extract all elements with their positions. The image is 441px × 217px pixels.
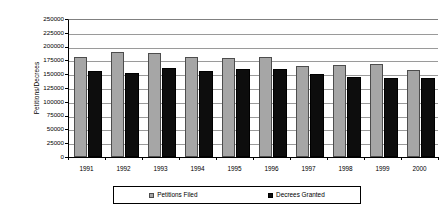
y-tick-label: 0 [24,154,64,160]
bar-chart: Petitions/Decrees 2500002250002000001750… [0,0,441,217]
y-tick-label: 75000 [24,112,64,118]
bar-filed-1992 [111,52,125,157]
x-tick-label: 1995 [216,165,253,173]
y-tick-label: 125000 [24,85,64,91]
x-tick-label: 1993 [142,165,179,173]
x-tick-label: 1991 [68,165,105,173]
gridline [69,34,438,35]
x-tick-mark [253,157,254,160]
bar-filed-1998 [333,65,347,157]
bar-filed-2000 [407,70,421,157]
x-tick-label: 1997 [290,165,327,173]
x-tick-mark [438,157,439,160]
bar-filed-1991 [74,57,88,158]
x-tick-mark [327,157,328,160]
bar-granted-1995 [236,69,250,157]
chart-legend: Petitions FiledDecrees Granted [113,186,361,204]
legend-label: Petitions Filed [157,191,197,199]
bar-filed-1999 [370,64,384,157]
bar-granted-1998 [347,77,361,157]
x-tick-label: 2000 [401,165,438,173]
gridline [69,48,438,49]
y-tick-label: 200000 [24,43,64,49]
bar-granted-2000 [421,78,435,158]
bar-filed-1995 [222,58,236,157]
x-tick-mark [364,157,365,160]
y-tick-label: 50000 [24,126,64,132]
x-tick-label: 1996 [253,165,290,173]
x-tick-label: 1994 [179,165,216,173]
x-tick-label: 1998 [327,165,364,173]
bar-granted-1994 [199,71,213,157]
y-tick-label: 250000 [24,16,64,22]
bar-granted-1996 [273,69,287,157]
bar-granted-1993 [162,68,176,157]
legend-entry-granted: Decrees Granted [268,191,325,199]
bar-granted-1999 [384,78,398,158]
y-tick-label: 25000 [24,140,64,146]
bar-filed-1996 [259,57,273,158]
bar-granted-1997 [310,74,324,157]
y-tick-label: 225000 [24,30,64,36]
legend-label: Decrees Granted [276,191,325,199]
plot-area [68,19,438,157]
x-tick-mark [179,157,180,160]
gridline [69,61,438,62]
bar-filed-1997 [296,66,310,157]
y-tick-label: 100000 [24,99,64,105]
x-tick-label: 1999 [364,165,401,173]
x-tick-mark [216,157,217,160]
bar-filed-1994 [185,57,199,157]
legend-entry-filed: Petitions Filed [149,191,197,199]
x-tick-mark [105,157,106,160]
y-tick-label: 150000 [24,71,64,77]
x-tick-mark [142,157,143,160]
x-tick-mark [68,157,69,160]
x-tick-mark [290,157,291,160]
bar-filed-1993 [148,53,162,157]
legend-swatch-granted-icon [268,193,273,198]
x-tick-mark [401,157,402,160]
bar-granted-1992 [125,73,139,157]
legend-swatch-filed-icon [149,193,154,198]
y-tick-label: 175000 [24,57,64,63]
x-tick-label: 1992 [105,165,142,173]
bar-granted-1991 [88,71,102,157]
